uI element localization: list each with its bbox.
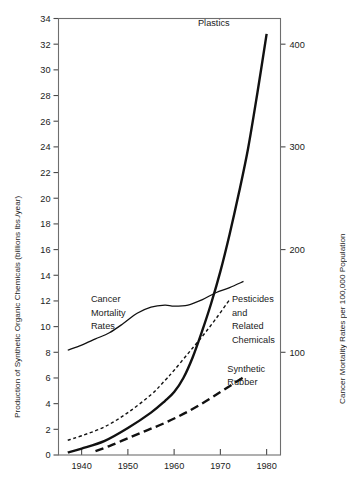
series-line — [68, 34, 267, 453]
left-tick-label: 18 — [40, 219, 50, 229]
left-tick-label: 14 — [40, 271, 50, 281]
x-tick-label: 1960 — [164, 461, 184, 471]
series-annotation-label: Mortality — [91, 308, 126, 318]
chart-figure: Production of Synthetic Organic Chemical… — [0, 0, 347, 486]
x-tick-label: 1940 — [71, 461, 91, 471]
x-tick-label: 1970 — [210, 461, 230, 471]
left-tick-label: 4 — [45, 399, 50, 409]
series-annotation-label: Cancer — [91, 294, 121, 304]
left-tick-label: 16 — [40, 245, 50, 255]
left-tick-label: 30 — [40, 65, 50, 75]
left-tick-label: 22 — [40, 168, 50, 178]
left-tick-label: 6 — [45, 373, 50, 383]
data-series-group — [68, 34, 267, 453]
left-tick-label: 34 — [40, 14, 50, 24]
left-tick-label: 32 — [40, 40, 50, 50]
left-tick-label: 26 — [40, 117, 50, 127]
series-annotation-label: Rates — [91, 321, 115, 331]
right-axis-ticks: 100200300400 — [281, 40, 305, 358]
left-tick-label: 2 — [45, 425, 50, 435]
series-annotation-label: Rubber — [227, 377, 257, 387]
left-axis-title: Production of Synthetic Organic Chemical… — [13, 196, 22, 418]
series-annotation-label: and — [232, 308, 247, 318]
series-annotation-label: Chemicals — [232, 335, 275, 345]
right-tick-label: 400 — [290, 40, 305, 50]
x-tick-label: 1950 — [118, 461, 138, 471]
left-tick-label: 10 — [40, 322, 50, 332]
series-annotation-label: Synthetic — [227, 364, 265, 374]
right-tick-label: 200 — [290, 245, 305, 255]
right-tick-label: 100 — [290, 348, 305, 358]
left-tick-label: 12 — [40, 296, 50, 306]
series-annotation-label: Related — [232, 321, 264, 331]
series-annotation-label: Pesticides — [232, 294, 274, 304]
left-tick-label: 24 — [40, 142, 50, 152]
series-annotations: PlasticsCancerMortalityRatesPesticidesan… — [91, 18, 275, 387]
x-axis-ticks: 19401950196019701980 — [71, 449, 276, 471]
left-tick-label: 0 — [45, 450, 50, 460]
right-tick-label: 300 — [290, 142, 305, 152]
right-axis-title: Cancer Mortality Rates per 100,000 Popul… — [338, 233, 347, 404]
left-axis-ticks: 0246810121416182022242628303234 — [40, 14, 58, 461]
x-tick-label: 1980 — [256, 461, 276, 471]
series-line — [96, 377, 244, 451]
left-tick-label: 28 — [40, 91, 50, 101]
left-tick-label: 8 — [45, 348, 50, 358]
plot-frame — [59, 19, 281, 456]
left-tick-label: 20 — [40, 194, 50, 204]
plot-area: 0246810121416182022242628303234 10020030… — [0, 0, 347, 486]
series-annotation-label: Plastics — [198, 18, 230, 28]
